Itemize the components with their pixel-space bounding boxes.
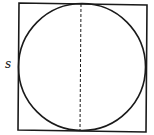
side-length-label: s <box>5 58 11 70</box>
diagram-canvas <box>0 0 154 135</box>
inscribed-circle <box>19 4 146 131</box>
dashed-diameter <box>80 4 81 130</box>
